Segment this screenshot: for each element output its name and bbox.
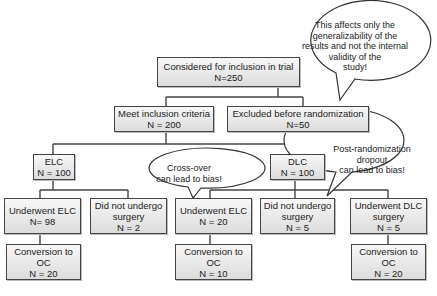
box-count: N = 20 — [374, 268, 402, 279]
box-label: Did not undergo — [264, 200, 332, 211]
box-label: OC — [36, 257, 50, 268]
callout-line: This affects only the — [292, 20, 418, 31]
box-label: Meet inclusion criteria — [118, 108, 210, 119]
box-count: N = 2 — [117, 222, 140, 233]
callout-dropout: Post-randomization dropout can lead to b… — [318, 144, 426, 176]
flow-diagram: Considered for inclusion in trial N=250 … — [0, 0, 437, 296]
callout-line: results and not the internal — [292, 41, 418, 52]
box-count: N = 20 — [29, 268, 57, 279]
box-count: N= 98 — [30, 216, 56, 227]
box-label: surgery — [373, 211, 405, 222]
box-label: OC — [206, 257, 220, 268]
box-label: Did not undergo — [95, 200, 163, 211]
box-count: N = 5 — [286, 222, 309, 233]
box-dlc-underwent-dlc: Underwent DLC surgery N = 5 — [350, 198, 427, 234]
box-label: Underwent ELC — [9, 205, 76, 216]
box-label: surgery — [113, 211, 145, 222]
box-dlc-no-surgery: Did not undergo surgery N = 5 — [260, 198, 335, 234]
box-elc-no-surgery: Did not undergo surgery N = 2 — [90, 198, 167, 234]
box-conversion-crossover: Conversion to OC N = 10 — [175, 244, 252, 280]
callout-crossover: Cross-over can lead to bias! — [130, 163, 248, 184]
box-considered: Considered for inclusion in trial N=250 — [157, 57, 300, 87]
box-conversion-elc: Conversion to OC N = 20 — [6, 244, 81, 280]
box-meet-criteria: Meet inclusion criteria N = 200 — [114, 106, 214, 132]
box-count: N = 10 — [199, 268, 227, 279]
box-count: N = 100 — [281, 167, 315, 178]
callout-line: validity of the — [292, 52, 418, 63]
box-label: Considered for inclusion in trial — [164, 61, 294, 72]
box-label: DLC — [288, 156, 307, 167]
box-elc: ELC N = 100 — [33, 154, 75, 180]
box-dlc: DLC N = 100 — [270, 154, 325, 180]
box-label: Underwent DLC — [355, 200, 423, 211]
callout-line: generalizability of the — [292, 31, 418, 42]
box-label: surgery — [282, 211, 314, 222]
box-excluded: Excluded before randomization N=50 — [227, 106, 369, 132]
box-label: Conversion to — [184, 246, 243, 257]
callout-line: Cross-over — [130, 163, 248, 174]
box-count: N = 200 — [147, 119, 181, 130]
callout-line: can lead to bias! — [318, 165, 426, 176]
box-count: N = 100 — [37, 167, 71, 178]
box-label: OC — [381, 257, 395, 268]
box-count: N=50 — [287, 119, 310, 130]
box-count: N = 5 — [377, 222, 400, 233]
callout-generalizability: This affects only the generalizability o… — [292, 20, 418, 73]
callout-line: can lead to bias! — [130, 174, 248, 185]
box-label: Conversion to — [359, 246, 418, 257]
callout-line: study! — [292, 62, 418, 73]
box-label: Underwent ELC — [180, 205, 247, 216]
box-label: Conversion to — [14, 246, 73, 257]
box-label: ELC — [45, 156, 63, 167]
box-elc-underwent: Underwent ELC N= 98 — [4, 198, 81, 234]
box-dlc-underwent-elc: Underwent ELC N = 20 — [175, 198, 252, 234]
box-conversion-dlc: Conversion to OC N = 20 — [351, 244, 426, 280]
box-label: Excluded before randomization — [233, 108, 364, 119]
box-count: N=250 — [214, 72, 242, 83]
callout-line: dropout — [318, 155, 426, 166]
box-count: N = 20 — [199, 216, 227, 227]
callout-line: Post-randomization — [318, 144, 426, 155]
